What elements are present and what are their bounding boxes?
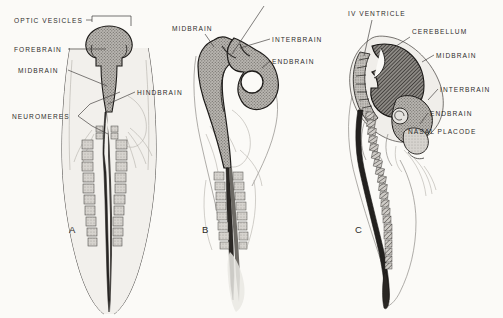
panel-a-label-optic-vesicles: OPTIC VESICLES — [14, 17, 83, 24]
panel-a-label-hindbrain: HINDBRAIN — [137, 89, 183, 96]
panel-a-label-neuromeres: NEUROMERES — [12, 113, 70, 120]
panel-c-label-endbrain: ENDBRAIN — [430, 110, 472, 117]
panel-c-label-iv-ventricle: IV VENTRICLE — [348, 10, 406, 17]
panel-b-optic-cup — [241, 71, 263, 93]
panel-a-letter: A — [69, 224, 76, 235]
panel-c-label-midbrain: MIDBRAIN — [436, 52, 477, 59]
panel-a-label-midbrain: MIDBRAIN — [18, 67, 59, 74]
panel-c-letter: C — [355, 224, 362, 235]
panel-c-optic-cup — [392, 108, 408, 124]
panel-c-label-nasal-placode: NASAL PLACODE — [408, 128, 476, 135]
panel-c-label-interbrain: INTERBRAIN — [440, 86, 490, 93]
panel-c-label-cerebellum: CEREBELLUM — [412, 28, 467, 35]
embryo-brain-figure: OPTIC VESICLES FOREBRAIN MIDBRAIN HINDBR… — [0, 0, 503, 318]
panel-b-label-interbrain: INTERBRAIN — [272, 36, 322, 43]
panel-b-label-endbrain: ENDBRAIN — [272, 58, 314, 65]
panel-b-label-midbrain: MIDBRAIN — [172, 25, 213, 32]
panel-a-label-forebrain: FOREBRAIN — [14, 46, 62, 53]
panel-b-letter: B — [202, 224, 209, 235]
